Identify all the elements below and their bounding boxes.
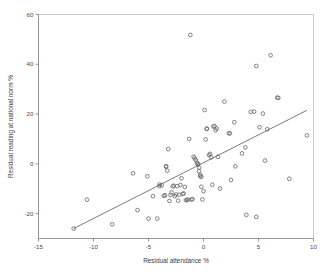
y-axis-title: Residual reading at national norm % xyxy=(7,75,15,178)
data-point xyxy=(165,169,169,173)
data-point xyxy=(210,183,214,187)
axes xyxy=(39,15,314,239)
data-point xyxy=(202,189,206,193)
data-point xyxy=(269,53,273,57)
data-points xyxy=(72,33,309,230)
data-point xyxy=(151,194,155,198)
data-point xyxy=(163,193,167,197)
data-point xyxy=(287,177,291,181)
data-point xyxy=(243,146,247,150)
data-point xyxy=(176,199,180,203)
data-point xyxy=(263,159,267,163)
data-point xyxy=(204,138,208,142)
x-tick-label: -10 xyxy=(89,243,99,250)
data-point xyxy=(229,178,233,182)
data-point xyxy=(168,199,172,203)
x-tick-label: 0 xyxy=(202,243,206,250)
data-point xyxy=(240,152,244,156)
x-axis-ticks: -15-10-50510 xyxy=(34,239,317,250)
data-point xyxy=(254,64,258,68)
regression-line xyxy=(74,110,307,228)
data-point xyxy=(232,120,236,124)
data-point xyxy=(110,222,114,226)
y-tick-label: -20 xyxy=(25,210,35,217)
y-tick-label: 0 xyxy=(30,160,34,167)
data-point xyxy=(203,108,207,112)
data-point xyxy=(258,125,262,129)
data-point xyxy=(199,185,203,189)
data-point xyxy=(136,208,140,212)
data-point xyxy=(245,213,249,217)
data-point xyxy=(218,187,222,191)
data-point xyxy=(188,33,192,37)
data-point xyxy=(187,137,191,141)
data-point xyxy=(223,100,227,104)
data-point xyxy=(180,176,184,180)
data-point xyxy=(183,185,187,189)
data-point xyxy=(201,198,205,202)
data-point xyxy=(146,174,150,178)
x-tick-label: 10 xyxy=(310,243,317,250)
x-tick-label: 5 xyxy=(257,243,261,250)
x-tick-label: -5 xyxy=(146,243,152,250)
y-tick-label: 40 xyxy=(27,60,34,67)
data-point xyxy=(305,134,309,138)
data-point xyxy=(179,183,183,187)
scatter-plot-figure: -200204060 -15-10-50510 Residual attenda… xyxy=(0,0,330,275)
data-point xyxy=(147,217,151,221)
chart-canvas: -200204060 -15-10-50510 Residual attenda… xyxy=(0,0,330,275)
data-point xyxy=(85,198,89,202)
data-point xyxy=(254,215,258,219)
data-point xyxy=(155,217,159,221)
x-axis-title: Residual attendance % xyxy=(143,257,209,264)
y-tick-label: 20 xyxy=(27,110,34,117)
data-point xyxy=(234,164,238,168)
data-point xyxy=(261,112,265,116)
y-tick-label: 60 xyxy=(27,11,34,18)
x-tick-label: -15 xyxy=(34,243,44,250)
data-point xyxy=(166,147,170,151)
y-axis-ticks: -200204060 xyxy=(25,11,39,217)
data-point xyxy=(131,171,135,175)
